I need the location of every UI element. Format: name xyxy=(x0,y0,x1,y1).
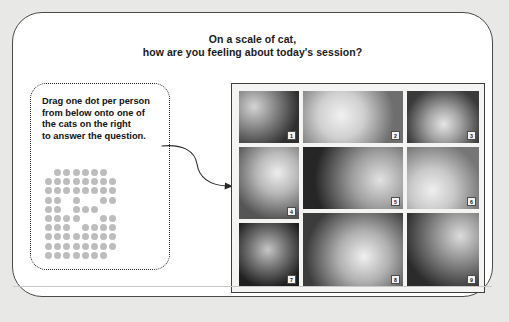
dot-row xyxy=(45,187,157,196)
vote-dot[interactable] xyxy=(73,243,80,250)
vote-dot[interactable] xyxy=(54,215,61,222)
cat-photo-option[interactable]: 3 xyxy=(407,91,479,143)
bottom-divider xyxy=(13,286,492,287)
vote-dot[interactable] xyxy=(100,233,107,240)
vote-dot[interactable] xyxy=(45,252,52,259)
vote-dot[interactable] xyxy=(45,178,52,185)
dot-spacer xyxy=(91,215,98,222)
cat-photo-option[interactable]: 8 xyxy=(303,213,403,287)
vote-dot[interactable] xyxy=(73,215,80,222)
vote-dot[interactable] xyxy=(63,215,70,222)
vote-dot[interactable] xyxy=(54,197,61,204)
vote-dot[interactable] xyxy=(109,243,116,250)
vote-dot[interactable] xyxy=(82,206,89,213)
vote-dot[interactable] xyxy=(100,215,107,222)
cat-photo-image xyxy=(303,91,403,143)
cat-photo-option[interactable]: 5 xyxy=(303,147,403,209)
draggable-dot-grid[interactable] xyxy=(45,169,157,261)
vote-dot[interactable] xyxy=(73,206,80,213)
cat-photo-option[interactable]: 6 xyxy=(407,147,479,209)
vote-dot[interactable] xyxy=(82,169,89,176)
instruction-line-4: to answer the question. xyxy=(42,131,164,143)
cat-photo-image xyxy=(303,147,403,209)
vote-dot[interactable] xyxy=(91,169,98,176)
vote-dot[interactable] xyxy=(54,178,61,185)
vote-dot[interactable] xyxy=(100,169,107,176)
vote-dot[interactable] xyxy=(100,178,107,185)
instruction-line-1: Drag one dot per person xyxy=(42,96,164,108)
vote-dot[interactable] xyxy=(54,169,61,176)
vote-dot[interactable] xyxy=(82,252,89,259)
vote-dot[interactable] xyxy=(54,233,61,240)
dot-spacer xyxy=(119,206,126,213)
vote-dot[interactable] xyxy=(91,178,98,185)
cat-photo-panel: 123456789 xyxy=(231,83,485,293)
photo-number-badge: 4 xyxy=(287,207,296,216)
vote-dot[interactable] xyxy=(82,178,89,185)
vote-dot[interactable] xyxy=(109,197,116,204)
dot-spacer xyxy=(45,169,52,176)
vote-dot[interactable] xyxy=(100,224,107,231)
vote-dot[interactable] xyxy=(54,252,61,259)
vote-dot[interactable] xyxy=(54,224,61,231)
vote-dot[interactable] xyxy=(54,206,61,213)
vote-dot[interactable] xyxy=(54,187,61,194)
dot-spacer xyxy=(119,252,126,259)
vote-dot[interactable] xyxy=(109,224,116,231)
vote-dot[interactable] xyxy=(91,224,98,231)
vote-dot[interactable] xyxy=(82,243,89,250)
vote-dot[interactable] xyxy=(109,215,116,222)
cat-photo-option[interactable]: 9 xyxy=(407,213,479,287)
vote-dot[interactable] xyxy=(100,197,107,204)
vote-dot[interactable] xyxy=(91,206,98,213)
vote-dot[interactable] xyxy=(73,233,80,240)
vote-dot[interactable] xyxy=(82,187,89,194)
cat-photo-option[interactable]: 4 xyxy=(239,147,299,219)
vote-dot[interactable] xyxy=(63,243,70,250)
vote-dot[interactable] xyxy=(63,187,70,194)
cat-photo-option[interactable]: 7 xyxy=(239,223,299,287)
vote-dot[interactable] xyxy=(73,178,80,185)
vote-dot[interactable] xyxy=(63,252,70,259)
dot-spacer xyxy=(82,197,89,204)
cat-photo-grid[interactable]: 123456789 xyxy=(237,89,479,287)
vote-dot[interactable] xyxy=(91,233,98,240)
vote-dot[interactable] xyxy=(73,187,80,194)
vote-dot[interactable] xyxy=(100,187,107,194)
vote-dot[interactable] xyxy=(45,187,52,194)
vote-dot[interactable] xyxy=(73,169,80,176)
vote-dot[interactable] xyxy=(100,243,107,250)
vote-dot[interactable] xyxy=(63,169,70,176)
vote-dot[interactable] xyxy=(45,206,52,213)
page-title: On a scale of cat, how are you feeling a… xyxy=(13,33,492,59)
photo-number-badge: 5 xyxy=(391,197,400,206)
vote-dot[interactable] xyxy=(91,243,98,250)
vote-dot[interactable] xyxy=(109,233,116,240)
vote-dot[interactable] xyxy=(109,187,116,194)
vote-dot[interactable] xyxy=(91,252,98,259)
vote-dot[interactable] xyxy=(45,224,52,231)
dot-spacer xyxy=(100,206,107,213)
vote-dot[interactable] xyxy=(73,252,80,259)
vote-dot[interactable] xyxy=(45,233,52,240)
vote-dot[interactable] xyxy=(63,178,70,185)
cat-photo-option[interactable]: 2 xyxy=(303,91,403,143)
vote-dot[interactable] xyxy=(109,178,116,185)
vote-dot[interactable] xyxy=(100,252,107,259)
vote-dot[interactable] xyxy=(63,233,70,240)
dot-spacer xyxy=(109,252,116,259)
vote-dot[interactable] xyxy=(91,187,98,194)
cat-photo-option[interactable]: 1 xyxy=(239,91,299,143)
dot-row xyxy=(45,178,157,187)
vote-dot[interactable] xyxy=(82,233,89,240)
vote-dot[interactable] xyxy=(45,243,52,250)
vote-dot[interactable] xyxy=(63,224,70,231)
vote-dot[interactable] xyxy=(54,243,61,250)
vote-dot[interactable] xyxy=(73,197,80,204)
title-line-1: On a scale of cat, xyxy=(13,33,492,46)
vote-dot[interactable] xyxy=(45,215,52,222)
dot-row xyxy=(45,243,157,252)
vote-dot[interactable] xyxy=(45,197,52,204)
vote-dot[interactable] xyxy=(82,224,89,231)
dot-spacer xyxy=(119,197,126,204)
